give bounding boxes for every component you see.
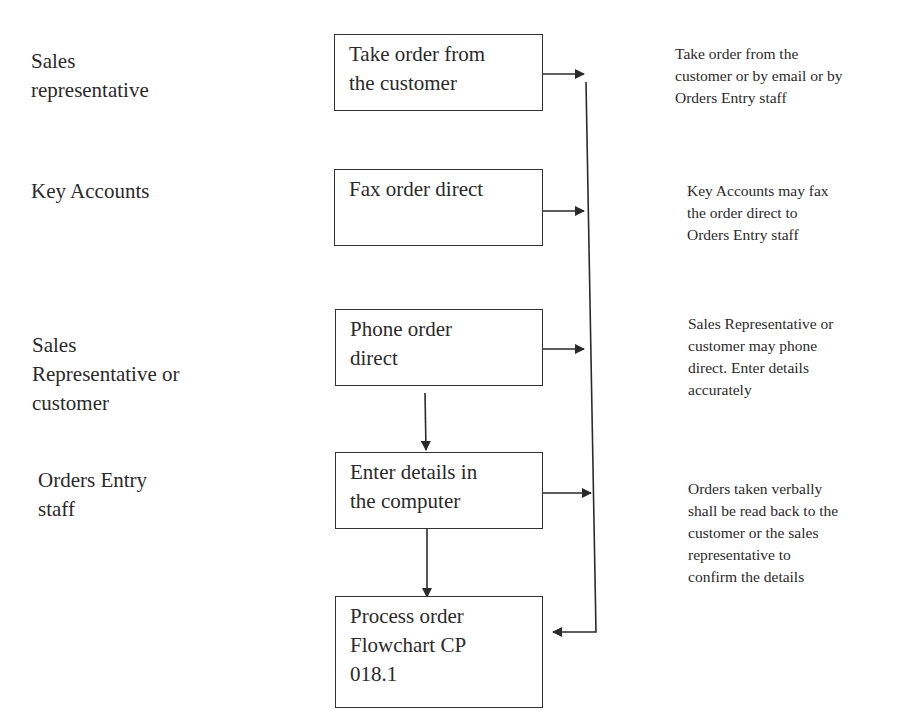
actor-orders-entry-staff: Orders Entry staff — [38, 466, 147, 524]
note-take-order: Take order from the customer or by email… — [675, 43, 842, 109]
step-take-order: Take order from the customer — [334, 34, 543, 111]
step-enter-details: Enter details in the computer — [335, 452, 543, 529]
step-fax-order: Fax order direct — [334, 169, 543, 246]
note-phone-order: Sales Representative or customer may pho… — [688, 313, 833, 401]
step-phone-order: Phone order direct — [335, 309, 543, 386]
actor-key-accounts: Key Accounts — [31, 177, 149, 206]
actor-sales-representative: Sales representative — [31, 47, 149, 105]
note-enter-details: Orders taken verbally shall be read back… — [688, 478, 838, 588]
note-fax-order: Key Accounts may fax the order direct to… — [687, 180, 829, 246]
step-process-order: Process order Flowchart CP 018.1 — [335, 596, 543, 708]
actor-sales-rep-or-customer: Sales Representative or customer — [32, 331, 180, 418]
